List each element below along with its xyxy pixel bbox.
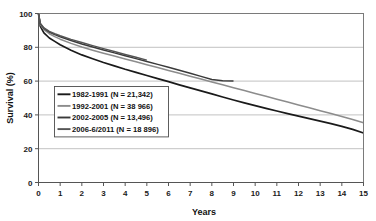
y-tick-label-40: 40 [24,111,33,120]
x-tick-label-12: 12 [294,189,303,198]
x-tick-label-13: 13 [316,189,325,198]
legend: 1982-1991 (N = 21,342)1992-2001 (N = 38 … [55,87,169,137]
survival-curve-figure: 0123456789101112131415 020406080100 Year… [0,0,376,221]
x-tick-label-6: 6 [166,189,171,198]
legend-label-0: 1982-1991 (N = 21,342) [72,90,153,99]
y-axis-ticks: 020406080100 [19,10,38,188]
legend-label-3: 2006-6/2011 (N = 18 896) [72,125,159,134]
y-tick-label-100: 100 [19,10,33,19]
x-tick-label-8: 8 [210,189,215,198]
y-tick-label-20: 20 [24,145,33,154]
legend-label-1: 1992-2001 (N = 38 966) [72,102,153,111]
x-tick-label-7: 7 [188,189,193,198]
y-tick-label-80: 80 [24,43,33,52]
x-tick-label-1: 1 [58,189,63,198]
x-tick-label-9: 9 [231,189,236,198]
x-tick-label-15: 15 [359,189,368,198]
x-axis-ticks: 0123456789101112131415 [36,183,368,198]
x-tick-label-5: 5 [145,189,150,198]
y-tick-label-60: 60 [24,77,33,86]
x-tick-label-14: 14 [337,189,346,198]
x-axis-title: Years [192,207,216,217]
y-tick-label-0: 0 [28,179,33,188]
chart-canvas: 0123456789101112131415 020406080100 Year… [0,0,376,221]
x-tick-label-4: 4 [123,189,128,198]
x-tick-label-2: 2 [80,189,85,198]
x-tick-label-11: 11 [273,189,282,198]
x-tick-label-0: 0 [36,189,41,198]
x-tick-label-10: 10 [251,189,260,198]
y-axis-title: Survival (%) [5,72,15,124]
legend-label-2: 2002-2005 (N = 13,496) [72,113,153,122]
x-tick-label-3: 3 [101,189,106,198]
